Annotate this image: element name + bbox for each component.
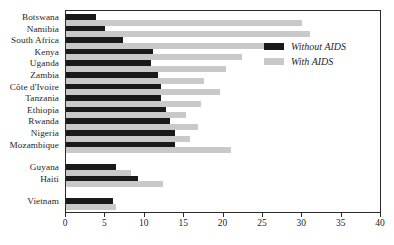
- category-label: Kenya: [35, 47, 59, 57]
- legend-swatch-icon: [264, 58, 284, 65]
- legend-item: Without AIDS: [264, 39, 389, 54]
- bar-with-aids: [66, 204, 116, 210]
- bar-with-aids: [66, 147, 231, 153]
- x-axis-tick-label: 30: [297, 218, 307, 228]
- category-label: Rwanda: [28, 116, 59, 126]
- x-axis-tick: [301, 213, 302, 217]
- category-label: Nigeria: [31, 128, 59, 138]
- category-label: Vietnam: [27, 196, 59, 206]
- legend-item: With AIDS: [264, 54, 389, 69]
- x-axis-tick-label: 0: [63, 218, 68, 228]
- x-axis-tick: [341, 213, 342, 217]
- category-label: Uganda: [30, 58, 59, 68]
- category-label: Mozambique: [10, 140, 59, 150]
- x-axis-tick-label: 5: [102, 218, 107, 228]
- chart-figure: BotswanaNamibiaSouth AfricaKenyaUgandaZa…: [0, 0, 394, 245]
- legend-label: With AIDS: [291, 56, 333, 67]
- plot-area: Without AIDSWith AIDS: [65, 10, 381, 213]
- x-axis-tick: [223, 213, 224, 217]
- x-axis-tick-label: 10: [139, 218, 149, 228]
- category-label: Namibia: [27, 24, 59, 34]
- x-axis-tick-label: 20: [218, 218, 228, 228]
- category-label: Haiti: [40, 174, 59, 184]
- x-axis-tick-label: 35: [336, 218, 346, 228]
- category-label: Côte d'Ivoire: [10, 82, 59, 92]
- legend-swatch-icon: [264, 43, 284, 50]
- category-label: South Africa: [11, 35, 59, 45]
- category-label: Ethiopia: [27, 105, 59, 115]
- x-axis-tick-label: 40: [375, 218, 385, 228]
- x-axis: 0510152025303540: [65, 213, 381, 245]
- category-label: Tanzania: [25, 93, 59, 103]
- bar-with-aids: [66, 181, 163, 187]
- chart-legend: Without AIDSWith AIDS: [264, 39, 389, 69]
- category-label-column: BotswanaNamibiaSouth AfricaKenyaUgandaZa…: [0, 10, 62, 213]
- category-label: Guyana: [30, 162, 59, 172]
- category-label: Botswana: [22, 12, 59, 22]
- x-axis-tick-label: 25: [257, 218, 267, 228]
- legend-label: Without AIDS: [291, 41, 346, 52]
- category-label: Zambia: [30, 70, 59, 80]
- x-axis-tick: [65, 213, 66, 217]
- x-axis-tick: [183, 213, 184, 217]
- x-axis-tick: [262, 213, 263, 217]
- x-axis-tick: [104, 213, 105, 217]
- x-axis-tick: [380, 213, 381, 217]
- x-axis-tick-label: 15: [178, 218, 188, 228]
- x-axis-tick: [144, 213, 145, 217]
